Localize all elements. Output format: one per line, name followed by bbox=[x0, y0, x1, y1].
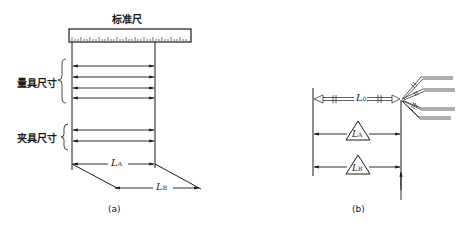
dim-LA-triangle-label: LA bbox=[352, 129, 362, 139]
fixture-brace bbox=[61, 124, 68, 150]
standard-ruler bbox=[69, 29, 191, 42]
gauge-size-arrows bbox=[73, 66, 154, 98]
figure-b bbox=[313, 77, 455, 200]
fixture-size-label: 夹具尺寸 bbox=[17, 130, 57, 145]
diagram-canvas bbox=[0, 0, 470, 231]
caption-a: (a) bbox=[108, 204, 121, 214]
fixture-size-arrows bbox=[73, 130, 154, 141]
dim-LA-label: LA bbox=[111, 157, 122, 168]
caption-b: (b) bbox=[352, 204, 365, 214]
standard-ruler-label: 标准尺 bbox=[112, 11, 142, 26]
gauge-brace bbox=[58, 59, 66, 103]
figure-a bbox=[58, 29, 201, 189]
dim-LB-label: LB bbox=[156, 181, 167, 192]
gauge-size-label: 量具尺寸 bbox=[17, 75, 57, 90]
dim-LB-triangle-label: LB bbox=[352, 163, 362, 173]
dim-L0-label: L0 bbox=[356, 92, 366, 103]
dimension-chain-fan bbox=[402, 77, 455, 119]
